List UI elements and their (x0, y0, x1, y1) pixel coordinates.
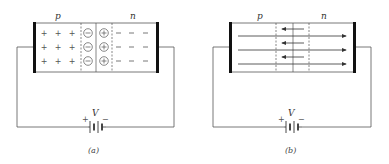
panel-b: p n V + − (b) (213, 11, 371, 155)
svg-text:+: + (41, 29, 48, 38)
junction-box-a (33, 22, 159, 73)
label-n-a: n (130, 11, 136, 21)
svg-text:+: + (69, 57, 76, 66)
pn-junction-figure: p n +++ +++ +++ (0, 0, 389, 164)
battery-minus-b: − (298, 115, 305, 124)
svg-text:+: + (41, 57, 48, 66)
voltage-label-a: V (92, 108, 100, 118)
svg-text:+: + (55, 57, 62, 66)
caption-b: (b) (285, 146, 296, 155)
n-side-electrons (116, 33, 148, 61)
label-n-b: n (321, 11, 327, 21)
svg-text:+: + (55, 43, 62, 52)
right-contact (353, 22, 356, 73)
voltage-label-b: V (288, 108, 296, 118)
panel-a: p n +++ +++ +++ (17, 11, 174, 155)
label-p-a: p (55, 11, 61, 21)
caption-a: (a) (88, 146, 99, 155)
depletion-donor-ions (100, 29, 109, 66)
depletion-acceptor-ions (84, 29, 93, 66)
left-contact (229, 22, 232, 73)
svg-text:+: + (69, 29, 76, 38)
battery-plus-a: + (82, 115, 89, 124)
right-contact (156, 22, 159, 73)
bulk-field-arrows (238, 36, 346, 64)
p-side-holes: +++ +++ +++ (41, 29, 76, 66)
junction-box-b (229, 22, 356, 73)
battery-plus-b: + (278, 115, 285, 124)
label-p-b: p (257, 11, 263, 21)
battery-minus-a: − (102, 115, 109, 124)
left-contact (33, 22, 36, 73)
svg-text:+: + (55, 29, 62, 38)
svg-text:+: + (69, 43, 76, 52)
svg-text:+: + (41, 43, 48, 52)
